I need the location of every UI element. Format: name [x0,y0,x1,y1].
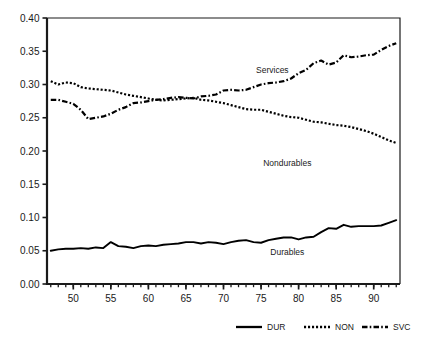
x-tick-label: 65 [180,293,192,304]
y-tick-label: 0.30 [20,79,40,90]
x-tick-label: 55 [105,293,117,304]
x-axis-tick-labels: 505560657075808590 [68,293,380,304]
x-tick-label: 85 [331,293,343,304]
chart-figure: 0.000.050.100.150.200.250.300.350.40 505… [0,0,423,344]
x-tick-label: 70 [218,293,230,304]
legend-label-non: NON [335,322,354,332]
y-axis-tick-labels: 0.000.050.100.150.200.250.300.350.40 [20,13,40,290]
x-tick-label: 50 [68,293,80,304]
y-tick-label: 0.10 [20,212,40,223]
x-tick-label: 90 [368,293,380,304]
legend-label-dur: DUR [267,322,285,332]
annotation-services: Services [256,65,289,75]
y-tick-label: 0.00 [20,279,40,290]
y-tick-label: 0.05 [20,245,40,256]
consumption-shares-line-chart: 0.000.050.100.150.200.250.300.350.40 505… [0,0,423,344]
annotation-durables: Durables [270,247,304,257]
x-tick-label: 80 [293,293,305,304]
y-tick-label: 0.35 [20,46,40,57]
y-tick-label: 0.40 [20,13,40,24]
x-tick-label: 60 [143,293,155,304]
annotation-nondurables: Nondurables [263,158,311,168]
y-tick-label: 0.20 [20,146,40,157]
x-tick-label: 75 [255,293,267,304]
y-tick-label: 0.15 [20,179,40,190]
y-tick-label: 0.25 [20,112,40,123]
chart-background [0,0,423,344]
legend-label-svc: SVC [393,322,410,332]
